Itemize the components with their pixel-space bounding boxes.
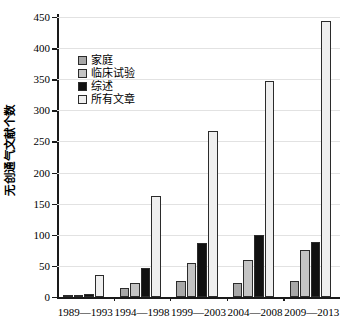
y-axis-line	[57, 14, 59, 298]
x-axis-tick-label: 1999—2003	[171, 307, 226, 318]
bar	[321, 21, 331, 297]
y-axis-tick-label: 350	[34, 74, 51, 85]
y-axis-tick-mark	[52, 141, 57, 142]
y-axis-tick-label: 300	[34, 105, 51, 116]
bar	[120, 288, 130, 297]
bar	[141, 268, 151, 297]
legend-item: 临床试验	[78, 67, 135, 79]
category-separator	[170, 297, 171, 301]
x-axis-tick-label: 2009—2013	[284, 307, 339, 318]
legend-swatch	[78, 69, 87, 78]
legend-label: 综述	[91, 81, 113, 92]
legend-swatch	[78, 95, 87, 104]
x-axis-tick-label: 1994—1998	[114, 307, 169, 318]
y-axis-tick-mark	[52, 17, 57, 18]
y-axis-tick-label: 50	[39, 260, 50, 271]
legend-swatch	[78, 56, 87, 65]
x-axis-tick-label: 2004—2008	[228, 307, 283, 318]
category-separator	[283, 297, 284, 301]
bar	[95, 275, 105, 297]
bar	[311, 242, 321, 297]
y-axis-tick-mark	[52, 266, 57, 267]
y-axis-tick-label: 400	[34, 43, 51, 54]
bar-group	[290, 17, 331, 297]
y-axis-tick-mark	[52, 204, 57, 205]
legend-item: 综述	[78, 80, 135, 92]
bar	[208, 131, 218, 297]
bar	[63, 295, 73, 297]
bar	[300, 250, 310, 297]
y-axis-tick-label: 250	[34, 136, 51, 147]
y-axis-title: 无创通气文献个数	[0, 0, 18, 300]
bar	[176, 281, 186, 297]
y-axis-tick-label: 0	[45, 292, 51, 303]
y-axis-tick-label: 100	[34, 229, 51, 240]
legend-label: 所有文章	[91, 94, 135, 105]
bar	[254, 235, 264, 297]
legend-item: 家庭	[78, 54, 135, 66]
x-axis-tick-label: 1989—1993	[58, 307, 113, 318]
y-axis-tick-mark	[52, 297, 57, 298]
y-axis-tick-label: 150	[34, 198, 51, 209]
legend-label: 临床试验	[91, 68, 135, 79]
bar	[243, 260, 253, 297]
x-axis-line	[57, 297, 340, 299]
bar	[130, 283, 140, 297]
y-axis-tick-label: 450	[34, 12, 51, 23]
y-axis-tick-mark	[52, 110, 57, 111]
y-axis-title-text: 无创通气文献个数	[1, 104, 17, 195]
bar	[197, 243, 207, 297]
bar	[74, 295, 84, 297]
y-axis-tick-mark	[52, 79, 57, 80]
chart-legend: 家庭临床试验综述所有文章	[78, 54, 135, 105]
legend-swatch	[78, 82, 87, 91]
bar-chart: 无创通气文献个数 050100150200250300350400450 198…	[0, 0, 346, 329]
category-separator	[114, 297, 115, 301]
category-separator	[227, 297, 228, 301]
legend-item: 所有文章	[78, 93, 135, 105]
bar	[265, 81, 275, 297]
bar	[84, 294, 94, 297]
y-axis-tick-mark	[52, 48, 57, 49]
bar-group	[233, 17, 274, 297]
y-axis-tick-label: 200	[34, 167, 51, 178]
bar	[151, 196, 161, 297]
bar-group	[176, 17, 217, 297]
bar	[187, 263, 197, 297]
y-axis-tick-mark	[52, 173, 57, 174]
bar	[233, 283, 243, 297]
legend-label: 家庭	[91, 55, 113, 66]
y-axis-tick-mark	[52, 235, 57, 236]
bar	[290, 281, 300, 297]
